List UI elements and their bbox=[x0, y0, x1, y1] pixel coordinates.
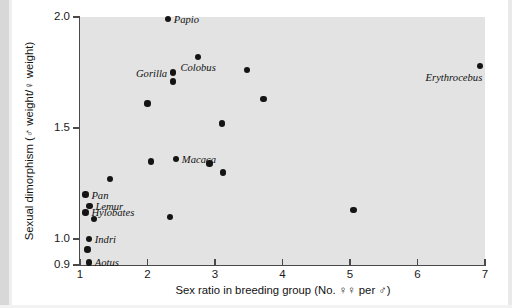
y-tick-mark-2.0 bbox=[73, 16, 80, 17]
data-point[interactable] bbox=[206, 160, 212, 166]
y-tick-mark-1.5 bbox=[73, 127, 80, 128]
x-tick-mark-7 bbox=[484, 259, 485, 266]
point-label-indri: Indri bbox=[95, 234, 116, 245]
x-tick-mark-4 bbox=[282, 259, 283, 266]
x-tick-label-2: 2 bbox=[133, 268, 163, 280]
data-point[interactable] bbox=[148, 158, 154, 164]
y-axis-title: Sexual dimorphism (♂ weight/♀ weight) bbox=[23, 16, 35, 266]
data-point[interactable] bbox=[170, 78, 176, 84]
point-label-aotus: Aotus bbox=[95, 257, 119, 268]
x-tick-label-4: 4 bbox=[268, 268, 298, 280]
data-point[interactable] bbox=[107, 176, 113, 182]
x-tick-label-5: 5 bbox=[335, 268, 365, 280]
data-point-pan[interactable] bbox=[82, 191, 88, 197]
x-tick-mark-1 bbox=[79, 259, 80, 266]
point-label-colobus: Colobus bbox=[180, 62, 215, 73]
data-point-gorilla[interactable] bbox=[170, 69, 176, 75]
x-tick-mark-6 bbox=[417, 259, 418, 266]
x-tick-label-6: 6 bbox=[403, 268, 433, 280]
data-point[interactable] bbox=[144, 100, 150, 106]
point-label-pan: Pan bbox=[91, 189, 108, 200]
data-point[interactable] bbox=[260, 96, 266, 102]
point-label-erythrocebus: Erythrocebus bbox=[426, 71, 483, 82]
x-tick-mark-5 bbox=[349, 259, 350, 266]
data-point[interactable] bbox=[167, 214, 173, 220]
x-axis-title: Sex ratio in breeding group (No. ♀♀ per … bbox=[80, 284, 486, 296]
data-point[interactable] bbox=[220, 169, 226, 175]
data-point[interactable] bbox=[350, 207, 356, 213]
y-tick-mark-1.0 bbox=[73, 238, 80, 239]
x-tick-mark-3 bbox=[214, 259, 215, 266]
point-label-hylobates: Hylobates bbox=[91, 207, 134, 218]
x-tick-label-3: 3 bbox=[200, 268, 230, 280]
data-point[interactable] bbox=[84, 246, 90, 252]
data-point-hylobates[interactable] bbox=[82, 209, 88, 215]
data-point-indri[interactable] bbox=[86, 236, 92, 242]
point-label-gorilla: Gorilla bbox=[136, 67, 167, 78]
point-label-papio: Papio bbox=[174, 14, 199, 25]
x-tick-mark-2 bbox=[147, 259, 148, 266]
x-tick-label-1: 1 bbox=[65, 268, 95, 280]
y-axis-line bbox=[79, 16, 80, 266]
data-point-aotus[interactable] bbox=[86, 259, 92, 265]
x-tick-label-7: 7 bbox=[470, 268, 500, 280]
plot-area bbox=[80, 17, 485, 265]
data-point[interactable] bbox=[219, 120, 225, 126]
scatter-plot-figure: 0.91.01.52.0 1234567 Sexual dimorphism (… bbox=[0, 0, 512, 308]
